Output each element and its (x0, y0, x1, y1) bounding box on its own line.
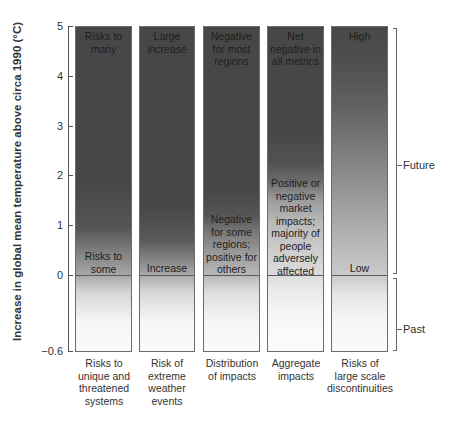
category-label: Risks tounique andthreatenedsystems (68, 357, 140, 407)
y-tick-4 (68, 76, 73, 77)
y-tick-label: −0.6 (33, 345, 63, 357)
category-label: Distributionof impacts (196, 357, 268, 382)
y-tick-1 (68, 225, 73, 226)
zero-line (140, 275, 194, 276)
ember-bar-aggregate: Netnegative inall metrics Positive orneg… (267, 26, 324, 352)
ember-bar-discontinuities: High Low (331, 26, 388, 352)
high-risk-label: Netnegative inall metrics (268, 30, 323, 68)
y-tick-5 (68, 26, 73, 27)
category-label: Risks oflarge scalediscontinuities (318, 357, 402, 395)
low-risk-label: Positive ornegativemarketimpacts;majorit… (268, 177, 323, 277)
y-axis-label: Increase in global mean temperature abov… (11, 41, 27, 341)
y-tick-2 (68, 175, 73, 176)
low-risk-label: Low (332, 262, 387, 275)
low-risk-label: Increase (140, 262, 194, 275)
y-tick-label: 0 (33, 269, 63, 281)
zero-line (332, 275, 387, 276)
ember-bar-distribution: Negativefor mostregions Negativefor some… (203, 26, 260, 352)
y-tick-label: 5 (33, 20, 63, 32)
low-risk-label: Negativefor someregions;positive forothe… (204, 213, 259, 276)
past-label: Past (403, 323, 425, 335)
future-label: Future (403, 159, 435, 171)
y-tick-label: 4 (33, 70, 63, 82)
y-axis-line (68, 26, 69, 352)
ember-bar-extreme-weather: Largeincrease Increase (139, 26, 195, 352)
category-label: Risk ofextremeweatherevents (132, 357, 202, 407)
zero-line (76, 275, 131, 276)
y-tick-0 (68, 275, 73, 276)
high-risk-label: Largeincrease (140, 30, 194, 55)
high-risk-label: Risks tomany (76, 30, 131, 55)
high-risk-label: Negativefor mostregions (204, 30, 259, 68)
high-risk-label: High (332, 30, 387, 43)
future-bracket (393, 28, 397, 274)
past-bracket-tick (397, 329, 402, 330)
y-tick-label: 2 (33, 169, 63, 181)
zero-line (204, 275, 259, 276)
low-risk-label: Risks tosome (76, 250, 131, 275)
y-tick-3 (68, 126, 73, 127)
y-tick-label: 3 (33, 120, 63, 132)
ember-bar-unique-systems: Risks tomany Risks tosome (75, 26, 132, 352)
past-bracket (393, 278, 397, 351)
y-tick-neg (68, 351, 73, 352)
y-tick-label: 1 (33, 219, 63, 231)
zero-line (268, 275, 323, 276)
future-bracket-tick (397, 165, 402, 166)
